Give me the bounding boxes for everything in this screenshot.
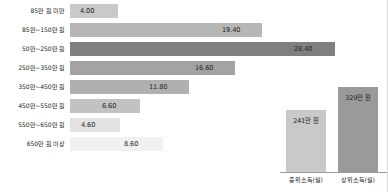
bar-category-label: 85만 원 미만	[0, 7, 70, 15]
bar-row: 85만~150만 원 19.40	[0, 23, 348, 37]
bar-value-label: 28.40	[294, 42, 312, 56]
bar-value-label: 4.00	[80, 4, 94, 18]
bar-track: 16.60	[70, 61, 348, 75]
monthly-income-column-chart: 241만 원 329만 원 중위소득(월) 상위소득(월)	[280, 84, 388, 192]
bar-category-label: 350만~450만 원	[0, 83, 70, 91]
columns-plot-area: 241만 원 329만 원	[280, 84, 388, 172]
bar-category-label: 450만~550만 원	[0, 102, 70, 110]
bar-track: 4.00	[70, 4, 348, 18]
bar-value-label: 19.40	[222, 23, 240, 37]
bar-row: 50만~250만 원 28.40	[0, 42, 348, 56]
bar-value-label: 11.80	[149, 80, 167, 94]
bar-track: 19.40	[70, 23, 348, 37]
bar-category-label: 50만~250만 원	[0, 45, 70, 53]
bar-category-label: 550만~650만 원	[0, 121, 70, 129]
column-axis-label-upper: 상위소득(월)	[331, 175, 385, 184]
bar-category-label: 650만 원 이상	[0, 140, 70, 148]
column-chart-baseline	[280, 172, 388, 173]
bar-category-label: 250만~350만 원	[0, 64, 70, 72]
bar-value-label: 4.60	[81, 118, 95, 132]
column-axis-label-median: 중위소득(월)	[279, 175, 333, 184]
bar-value-label: 16.60	[195, 61, 213, 75]
bar-category-label: 85만~150만 원	[0, 26, 70, 34]
bar-value-label: 8.60	[124, 137, 138, 151]
column-value-label: 329만 원	[338, 93, 378, 102]
bar-row: 85만 원 미만 4.00	[0, 4, 348, 18]
bar-track: 28.40	[70, 42, 348, 56]
bar-fill	[70, 80, 189, 94]
income-distribution-figure: 85만 원 미만 4.00 85만~150만 원 19.40 50만~250만 …	[0, 0, 388, 192]
bar-value-label: 6.60	[102, 99, 116, 113]
column-value-label: 241만 원	[286, 116, 326, 125]
bar-row: 250만~350만 원 16.60	[0, 61, 348, 75]
bar-fill	[70, 137, 163, 151]
